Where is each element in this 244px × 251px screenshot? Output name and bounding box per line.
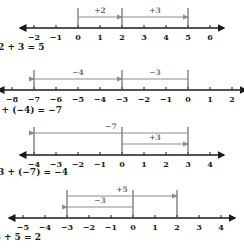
- tick-label: 3: [196, 222, 202, 232]
- tick-label: 0: [75, 32, 81, 42]
- tick-label: 1: [152, 222, 158, 232]
- tick-label: −6: [50, 94, 62, 104]
- number-line-1: +2+3−2−101234562 + 3 = 5: [0, 0, 244, 60]
- tick-label: 1: [141, 159, 147, 169]
- tick-label: −1: [50, 32, 62, 42]
- tick-label: 0: [119, 159, 125, 169]
- tick-label: 2: [174, 222, 180, 232]
- equation-text: 3 + (−7) = −4: [0, 167, 68, 177]
- tick-label: 6: [207, 32, 213, 42]
- number-line-worksheet: +2+3−2−101234562 + 3 = 5 −4−3−8−7−6−5−4−…: [0, 0, 244, 251]
- tick-label: −5: [72, 94, 84, 104]
- span-label: −7: [105, 122, 117, 131]
- tick-label: 3: [141, 32, 147, 42]
- span-label: +5: [116, 185, 128, 194]
- tick-label: 2: [119, 32, 125, 42]
- equation-text: 2 + 3 = 5: [0, 42, 44, 52]
- tick-label: −1: [160, 94, 172, 104]
- number-line-block-3: −7+3−4−3−2−1012343 + (−7) = −4: [0, 122, 244, 184]
- span-label: +3: [149, 6, 161, 15]
- tick-label: 4: [218, 222, 224, 232]
- number-line-2: −4−3−8−7−6−5−4−3−2−1012(−3) + (−4) = −7: [0, 60, 244, 122]
- span-label: +3: [149, 133, 161, 142]
- tick-label: −4: [39, 222, 51, 232]
- tick-label: −2: [28, 32, 40, 42]
- number-line-block-2: −4−3−8−7−6−5−4−3−2−1012(−3) + (−4) = −7: [0, 60, 244, 122]
- tick-label: −2: [72, 159, 84, 169]
- tick-label: −1: [94, 159, 106, 169]
- tick-label: −3: [116, 94, 128, 104]
- tick-label: 5: [185, 32, 191, 42]
- tick-label: −2: [138, 94, 150, 104]
- tick-label: 1: [207, 94, 213, 104]
- tick-label: −8: [6, 94, 18, 104]
- tick-label: 0: [130, 222, 136, 232]
- tick-label: 2: [229, 94, 235, 104]
- tick-label: −2: [83, 222, 95, 232]
- number-line-block-1: +2+3−2−101234562 + 3 = 5: [0, 0, 244, 60]
- span-label: −4: [72, 68, 84, 77]
- number-line-block-4: +5−3−5−4−3−2−101234−3 + 5 = 2: [0, 184, 244, 251]
- span-label: −3: [149, 68, 161, 77]
- tick-label: 0: [185, 94, 191, 104]
- tick-label: −7: [28, 94, 40, 104]
- tick-label: 3: [185, 159, 191, 169]
- tick-label: 4: [207, 159, 213, 169]
- tick-label: −3: [61, 222, 73, 232]
- span-label: +2: [94, 6, 106, 15]
- equation-text: (−3) + (−4) = −7: [0, 105, 62, 115]
- number-line-4: +5−3−5−4−3−2−101234−3 + 5 = 2: [0, 184, 244, 251]
- tick-label: −5: [17, 222, 29, 232]
- tick-label: −1: [105, 222, 117, 232]
- span-label: −3: [94, 196, 106, 205]
- number-line-3: −7+3−4−3−2−1012343 + (−7) = −4: [0, 122, 244, 184]
- tick-label: 4: [163, 32, 169, 42]
- tick-label: 2: [163, 159, 169, 169]
- equation-text: −3 + 5 = 2: [0, 232, 41, 242]
- tick-label: −4: [94, 94, 106, 104]
- tick-label: 1: [97, 32, 103, 42]
